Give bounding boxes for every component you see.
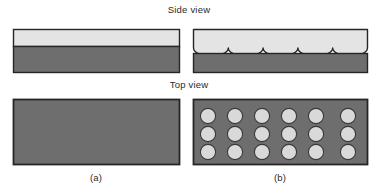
dimple [227, 108, 242, 123]
panel-a-coating-layer [14, 30, 180, 47]
dimple [254, 144, 269, 159]
panel-a-top-view [14, 100, 180, 165]
dimple [281, 126, 296, 141]
dimple [340, 126, 355, 141]
dimple [340, 108, 355, 123]
panel-b-caption: (b) [192, 172, 368, 183]
dimple [227, 126, 242, 141]
panel-a-caption: (a) [12, 172, 180, 183]
dimple [200, 108, 215, 123]
panel-a-top-surface [14, 100, 180, 165]
dimple [308, 144, 323, 159]
dimple [308, 108, 323, 123]
dimple [281, 144, 296, 159]
dimple [308, 126, 323, 141]
panel-b-scalloped-coating [194, 30, 368, 57]
panel-b-substrate-layer [194, 54, 368, 73]
figure-container: Side view Top view [0, 0, 378, 194]
dimple [281, 108, 296, 123]
panel-a-side-view [14, 30, 180, 73]
dimple [254, 108, 269, 123]
dimple [227, 144, 242, 159]
dimple [200, 126, 215, 141]
dimple [340, 144, 355, 159]
dimple [200, 144, 215, 159]
dimple [254, 126, 269, 141]
panel-a-substrate-layer [14, 47, 180, 73]
figure-graphics [0, 0, 378, 194]
panel-b-side-view [194, 30, 368, 73]
panel-b-top-view [194, 100, 368, 165]
